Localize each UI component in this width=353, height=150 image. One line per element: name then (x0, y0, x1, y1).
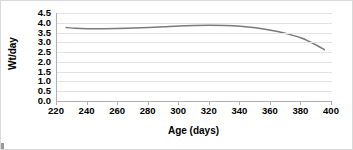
x-axis-tick-label: 400 (323, 106, 339, 116)
y-axis-title: Wt/day (3, 1, 21, 105)
line-series-wt-per-day (57, 13, 332, 101)
x-axis-tick-label: 360 (262, 106, 278, 116)
y-axis-tick-label: 3.0 (38, 38, 51, 48)
x-axis-tick-label: 340 (231, 106, 247, 116)
x-axis-tick-label: 300 (170, 106, 186, 116)
y-axis-title-text: Wt/day (7, 37, 18, 70)
gridline (57, 23, 332, 24)
x-axis-tick-label: 240 (79, 106, 95, 116)
line-path (66, 25, 324, 49)
x-axis-tick-label: 260 (109, 106, 125, 116)
gridline (57, 13, 332, 14)
gridline (57, 52, 332, 53)
corner-marker (1, 143, 4, 149)
x-axis-tick-label: 280 (140, 106, 156, 116)
x-axis-tick-label: 320 (201, 106, 217, 116)
gridline (57, 72, 332, 73)
gridline (57, 33, 332, 34)
chart-figure: Wt/day 0.00.51.01.52.02.53.03.54.04.5 22… (0, 0, 353, 150)
y-axis-tick-label: 2.5 (38, 47, 51, 57)
y-axis-tick-labels: 0.00.51.01.52.02.53.03.54.04.5 (21, 7, 53, 103)
x-axis-tick-label: 380 (293, 106, 309, 116)
y-axis-tick-label: 1.5 (38, 67, 51, 77)
x-axis-title: Age (days) (56, 125, 331, 136)
plot-area (56, 13, 332, 101)
y-axis-tick-label: 2.0 (38, 57, 51, 67)
y-axis-tick-label: 1.0 (38, 77, 51, 87)
y-axis-tick-label: 4.0 (38, 18, 51, 28)
y-axis-tick-label: 3.5 (38, 28, 51, 38)
x-axis-tick-label: 220 (48, 106, 64, 116)
x-axis-tick-marks (56, 101, 331, 105)
gridline (57, 62, 332, 63)
x-axis-tick-labels: 220240260280300320340360380400 (56, 106, 331, 120)
gridline (57, 81, 332, 82)
y-axis-tick-label: 4.5 (38, 8, 51, 18)
y-axis-tick-label: 0.5 (38, 86, 51, 96)
gridline (57, 91, 332, 92)
gridline (57, 42, 332, 43)
